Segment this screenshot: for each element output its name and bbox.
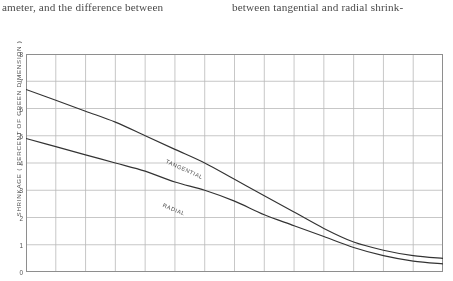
y-axis-tick-label: 6	[19, 105, 23, 112]
text-column-left: ameter, and the difference between	[2, 1, 222, 14]
shrinkage-chart-figure: SHRINKAGE ( PERCENT OF GREEN DIMENSION )…	[0, 40, 453, 281]
chart-svg	[26, 54, 443, 272]
y-axis-tick-label: 4	[19, 160, 23, 167]
y-axis-tick-label: 2	[19, 214, 23, 221]
page-text-block: ameter, and the difference between betwe…	[0, 0, 453, 22]
y-axis-tick-label: 7	[19, 78, 23, 85]
text-column-right: between tangential and radial shrink-	[232, 1, 453, 14]
y-axis-tick-label: 8	[19, 51, 23, 58]
y-axis-tick-label: 5	[19, 132, 23, 139]
y-axis-tick-labels: 012345678	[0, 40, 26, 281]
plot-area: TANGENTIAL RADIAL	[26, 54, 443, 272]
y-axis-tick-label: 3	[19, 187, 23, 194]
y-axis-tick-label: 1	[19, 241, 23, 248]
y-axis-tick-label: 0	[19, 269, 23, 276]
